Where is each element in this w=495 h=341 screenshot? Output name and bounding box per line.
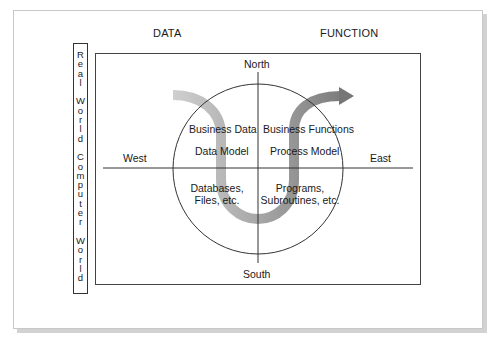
east-label: East [370,152,391,164]
programs-text: Programs, [258,182,342,194]
arrowhead-icon [339,87,354,105]
files-etc-text: Files, etc. [186,194,248,206]
databases-text: Databases, [186,182,248,194]
north-label: North [244,58,270,70]
west-label: West [123,152,147,164]
process-model-label: Process Model [270,145,339,157]
business-data-label: Business Data [189,123,257,135]
data-model-label: Data Model [195,145,249,157]
south-label: South [243,268,270,280]
programs-subroutines-label: Programs, Subroutines, etc. [258,182,342,206]
databases-files-label: Databases, Files, etc. [186,182,248,206]
quadrant-diagram [0,0,495,341]
business-functions-label: Business Functions [263,123,354,135]
subroutines-etc-text: Subroutines, etc. [258,194,342,206]
